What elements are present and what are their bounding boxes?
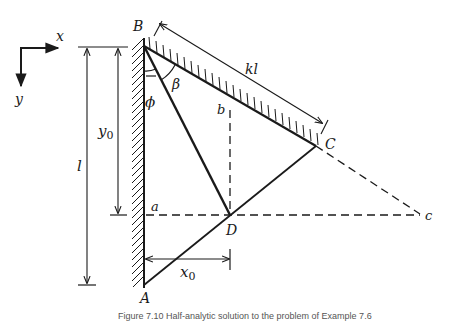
dimension-l: l: [77, 47, 128, 285]
angle-phi-label: ϕ: [145, 93, 155, 111]
x-axis-label: x: [56, 28, 64, 44]
vertical-wall: [132, 38, 144, 288]
phi-angle-arc: [144, 69, 156, 71]
coordinate-axes: x y: [14, 28, 64, 107]
dimension-x0: x0: [146, 249, 230, 283]
point-c-label: c: [425, 208, 433, 223]
dimension-l-label: l: [77, 157, 82, 175]
y-axis-label: y: [14, 91, 24, 107]
dimension-y0-label: y0: [97, 122, 113, 142]
dimension-y0: y0: [97, 49, 127, 215]
line-B-D: [145, 48, 230, 215]
wall-hatching: [132, 38, 144, 287]
point-D-label: D: [225, 222, 237, 238]
diagram: x y: [0, 0, 464, 321]
point-b-label: b: [217, 102, 225, 117]
dimension-kl-label: kl: [245, 61, 258, 77]
line-C-c-dashed: [316, 146, 420, 214]
figure-caption: Figure 7.10 Half-analytic solution to th…: [118, 311, 372, 321]
angle-beta-label: β: [171, 76, 180, 92]
dimension-x0-label: x0: [180, 263, 195, 283]
inclined-wall: [144, 37, 318, 146]
point-C-label: C: [325, 136, 336, 152]
point-B-label: B: [132, 18, 143, 34]
point-A-label: A: [138, 290, 150, 306]
point-a-label: a: [151, 199, 159, 214]
